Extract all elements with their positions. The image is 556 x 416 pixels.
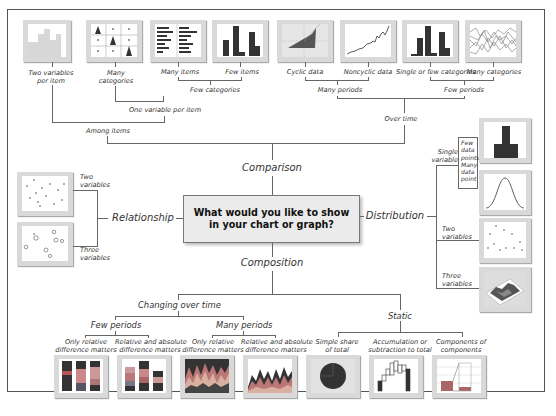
thumb-table-with-charts [86,20,142,62]
thumb-stacked-column [117,355,171,398]
label-static: Static [380,311,420,321]
label-over-time: Over time [376,115,426,123]
label-cyclic-data: Cyclic data [278,68,332,76]
label-line: Three [80,246,99,254]
thumb-variable-width-column [23,20,71,62]
label-single-or-few-categories: Single or few categories [396,68,466,76]
thumb-stacked-100-column [54,355,108,398]
label-line: Three [442,272,461,280]
label-simple-share: Simple shareof total [306,338,368,354]
label-line: subtraction to total [368,346,431,354]
label-line: Relative and absolute [115,338,187,346]
label-line: difference matters [182,346,243,354]
thumb-waterfall-chart [369,355,423,398]
label-dist-single-variable: Singlevariable [426,148,458,164]
label-rel-two-variables: Twovariables [80,173,110,189]
thumb-scatter-chart-dist [479,218,531,263]
label-line: Simple share [315,338,358,346]
label-line: data [461,168,475,175]
label-line: per item [37,77,65,85]
label-dist-data-points-box: FewdatapointsManydatapoint [458,137,478,189]
branch-comparison: Comparison [232,162,312,174]
label-line: Only relative [65,338,107,346]
label-many-categories: Manycategories [88,69,144,85]
thumb-scatter-chart [17,172,73,216]
label-only-relative-1: Only relativedifference matters [53,338,119,354]
label-line: of total [325,346,349,354]
label-line: Two [442,225,455,233]
label-line: points [461,154,479,161]
label-line: Many [461,161,477,168]
branch-distribution: Distribution [363,210,427,222]
label-line: Two variables [28,69,73,77]
label-accumulation: Accumulation orsubtraction to total [367,338,433,354]
label-many-periods: Many periods [310,86,370,94]
branch-composition: Composition [232,257,312,269]
question-line: What would you like to show [194,207,350,218]
label-components: Components ofcomponents [430,338,492,354]
label-line: difference matters [119,346,180,354]
label-line: Components of [436,338,486,346]
label-many-items: Many items [152,68,208,76]
label-line: Relative and absolute [241,338,313,346]
label-line: categories [99,77,134,85]
label-line: point [461,175,476,182]
label-rel-abs-1: Relative and absolutedifference matters [115,338,185,354]
label-dist-three-variables: Threevariables [442,272,472,288]
label-few-periods-comp: Few periods [90,320,142,330]
thumb-circular-area-chart [277,20,333,62]
label-changing-over-time: Changing over time [138,300,218,310]
thumb-3d-area-chart [479,267,531,312]
thumb-column-chart [212,20,268,62]
label-one-variable-per-item: One variable per item [120,106,210,114]
label-line: Few [461,139,473,146]
thumb-bar-chart-two [150,20,206,62]
branch-relationship: Relationship [110,212,176,224]
label-line: Only relative [192,338,234,346]
label-few-categories: Few categories [180,86,250,94]
label-many-periods-comp: Many periods [216,320,272,330]
thumb-line-chart [340,20,396,62]
label-dist-two-variables: Twovariables [442,225,472,241]
label-line: Two [80,173,93,181]
label-line: data [461,146,475,153]
thumb-line-histogram [479,170,531,215]
label-line: Single [438,148,458,156]
label-rel-three-variables: Threevariables [80,246,110,262]
question-line: in your chart or graph? [209,219,334,230]
thumb-column-histogram [479,118,531,163]
label-line: difference matters [245,346,306,354]
label-few-periods: Few periods [434,86,494,94]
label-two-variables-per-item: Two variablesper item [20,69,82,85]
label-line: variables [80,254,110,262]
thumb-bubble-chart [17,222,73,266]
thumb-stacked-100-with-subcomponents [432,355,486,398]
thumb-stacked-100-area [180,355,234,398]
label-line: Many [107,69,125,77]
thumb-column-chart-time [402,20,458,62]
label-few-items: Few items [214,68,270,76]
label-line: components [441,346,482,354]
thumb-pie-chart [306,355,360,398]
thumb-stacked-area [243,355,297,398]
label-line: Accumulation or [373,338,427,346]
label-many-categories-time: Many categories [466,68,522,76]
label-rel-abs-2: Relative and absolutedifference matters [241,338,311,354]
label-line: variable [431,156,458,164]
label-line: difference matters [55,346,116,354]
label-among-items: Among items [80,127,136,135]
label-line: variables [442,280,472,288]
central-question: What would you like to showin your chart… [183,195,360,243]
label-line: variables [80,181,110,189]
label-only-relative-2: Only relativedifference matters [180,338,246,354]
thumb-multi-line-chart [465,20,521,62]
label-noncyclic-data: Noncyclic data [340,68,396,76]
